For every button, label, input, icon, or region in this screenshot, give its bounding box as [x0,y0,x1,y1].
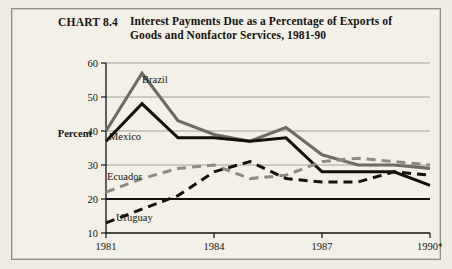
chart-plot-area: 102030405060 1981198419871990* Percent B… [12,9,442,261]
y-tick-label-20: 20 [88,194,99,205]
data-series-group [106,73,430,223]
x-tick-label-1990: 1990* [417,241,442,252]
series-label-brazil: Brazil [142,74,168,85]
y-tick-label-30: 30 [88,160,99,171]
y-tick-label-10: 10 [88,228,99,239]
series-label-ecuador: Ecuador [107,171,142,182]
series-line-brazil [106,73,430,168]
x-tick-label-1981: 1981 [96,241,117,252]
x-tick-label-1987: 1987 [312,241,333,252]
y-axis-title: Percent [58,128,93,139]
y-axis-tick-labels: 102030405060 [88,58,99,239]
x-tick-label-1984: 1984 [204,241,226,252]
series-line-mexico [106,104,430,186]
line-chart-svg: 102030405060 1981198419871990* Percent B… [12,9,442,261]
series-label-uruguay: Uruguay [116,212,153,223]
y-tick-label-60: 60 [88,58,99,69]
y-tick-label-50: 50 [88,92,99,103]
chart-figure-frame: CHART 8.4 Interest Payments Due as a Per… [11,8,441,260]
x-axis-tick-labels: 1981198419871990* [96,241,443,252]
series-label-mexico: Mexico [109,131,141,142]
